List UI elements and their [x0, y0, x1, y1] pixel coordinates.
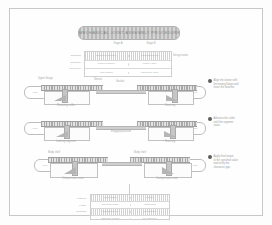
top-table-right-label: Design notes [173, 54, 188, 57]
assembly-step-1: Upper flange Sleeve Gasket Port Port Ret… [24, 77, 214, 113]
top-table-side-label: Condition [57, 55, 81, 58]
table-row: stainless grade passivated [91, 202, 169, 209]
table-cell: stainless grade [91, 204, 130, 207]
top-caption-right: Stage B [138, 42, 164, 45]
assembly-1-top-label: Sleeve [94, 78, 102, 81]
title-banner: MECHANICAL JOINT ASSEMBLY PROCEDURE [78, 26, 180, 40]
callout-line: seats. [214, 124, 235, 127]
assembly-3-top-label: Body shell [48, 151, 60, 154]
table-cell: inspection mark [128, 72, 172, 75]
assembly-2-center-label: Engaged position [90, 130, 152, 133]
assembly-1-bottom-label: Seat ring [144, 104, 196, 107]
table-cell: carbon steel [91, 197, 130, 200]
callout-line: and verify the [214, 162, 238, 165]
callout-line: Apply final torque [214, 155, 238, 158]
top-table: nominal clearance preload applied seated… [84, 51, 172, 77]
bottom-table-side-label: Finish [62, 205, 86, 208]
top-table-side-label: Reference [57, 68, 81, 71]
callout-2: Advance the collar until the segment sea… [208, 117, 235, 127]
table-cell: nominal clearance [85, 55, 128, 58]
table-cell: plated [130, 197, 170, 200]
leader-line-vertical [129, 184, 130, 194]
callout-marker-icon [208, 117, 212, 121]
table-cell: as supplied [130, 211, 170, 214]
assembly-3-bottom-label: Compression zone [46, 177, 100, 180]
bottom-table: carbon steel plated stainless grade pass… [90, 194, 170, 220]
diagram-sheet: MECHANICAL JOINT ASSEMBLY PROCEDURE Stag… [0, 0, 272, 225]
bottom-table-side-labels: Material Finish Remarks [62, 196, 86, 216]
connecting-shaft [96, 90, 146, 94]
callout-line: insert the fastener. [214, 86, 239, 89]
table-cell: assembly torque [91, 218, 130, 221]
bottom-table-side-label: Remarks [62, 211, 86, 214]
table-cell: passivated [130, 204, 170, 207]
table-row: seated position torque value [85, 61, 171, 70]
table-row: carbon steel plated [91, 195, 169, 202]
table-cell: per schedule [130, 218, 170, 221]
table-row: nominal clearance preload applied [85, 52, 171, 61]
assembly-step-3: Port Port Body shell Body shell Compress… [34, 150, 214, 186]
table-cell: elastomer seal [91, 211, 130, 214]
callout-line: Align the sleeve with [214, 79, 239, 82]
table-row: elastomer seal as supplied [91, 209, 169, 216]
table-cell: final setting [85, 72, 128, 75]
assembly-2-bottom-label: Seat ring [144, 140, 196, 143]
callout-marker-icon [208, 155, 212, 159]
assembly-1-top-label: Gasket [116, 80, 124, 83]
callout-3: Apply final torque to the specified valu… [208, 155, 238, 169]
assembly-3-top-label: Body shell [134, 151, 146, 154]
callout-line: Advance the collar [214, 117, 235, 120]
callout-line: clearance gap. [214, 166, 238, 169]
assembly-step-2: Port Port Engaged position Locking segme… [24, 113, 214, 147]
callout-1: Align the sleeve with the mating flange … [208, 79, 238, 89]
table-row: assembly torque per schedule [91, 216, 169, 222]
assembly-1-top-label: Upper flange [38, 77, 53, 80]
assembly-3-bottom-label: Compression zone [140, 177, 194, 180]
page-frame: MECHANICAL JOINT ASSEMBLY PROCEDURE Stag… [9, 8, 263, 216]
connecting-shaft [102, 162, 142, 166]
top-caption-left: Stage A [105, 42, 131, 45]
assembly-2-bottom-label: Locking segment [40, 140, 92, 143]
top-table-side-label: Tolerance [57, 62, 81, 65]
table-row: final setting inspection mark [85, 69, 171, 77]
table-cell: torque value [128, 63, 172, 66]
top-table-side-labels: Condition Tolerance Reference [57, 53, 81, 73]
bottom-table-side-label: Material [62, 198, 86, 201]
title-banner-text: MECHANICAL JOINT ASSEMBLY PROCEDURE [79, 27, 179, 39]
table-cell: seated position [85, 63, 128, 66]
assembly-1-bottom-label: Retaining collar [40, 104, 92, 107]
callout-marker-icon [208, 79, 212, 83]
table-cell: preload applied [128, 55, 172, 58]
